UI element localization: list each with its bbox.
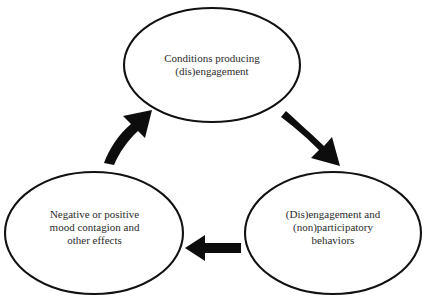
arrow-left-to-top-icon	[104, 110, 152, 165]
arrow-right-to-left-icon	[185, 235, 241, 261]
diagram-canvas	[0, 0, 429, 304]
engagement-behaviors-node-shape	[245, 172, 421, 294]
arrow-top-to-right-icon	[281, 111, 340, 166]
conditions-node-shape	[124, 8, 300, 122]
mood-contagion-node-shape	[5, 172, 183, 294]
cycle-diagram: Conditions producing (dis)engagement (Di…	[0, 0, 429, 304]
